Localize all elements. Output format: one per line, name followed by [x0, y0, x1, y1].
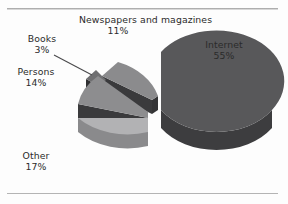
pie-label-newspapers-line1: Newspapers [79, 14, 137, 25]
pie-label-internet-name: Internet [205, 39, 243, 50]
pie-label-internet: Internet 55% [196, 39, 252, 61]
pie-label-newspapers: Newspapers and magazines 11% [79, 14, 157, 36]
pie-label-newspapers-value: 11% [79, 25, 157, 36]
pie-label-persons: Persons 14% [8, 66, 64, 88]
pie-label-other: Other 17% [14, 150, 58, 172]
pie-label-books-name: Books [28, 33, 56, 44]
pie-label-other-name: Other [23, 150, 50, 161]
pie-label-other-value: 17% [14, 161, 58, 172]
pie-label-newspapers-line2: and magazines [140, 14, 212, 25]
pie-label-internet-value: 55% [196, 50, 252, 61]
pie-label-books-value: 3% [18, 44, 66, 55]
pie-label-books: Books 3% [18, 33, 66, 55]
pie-chart-figure: Newspapers and magazines 11% Books 3% Pe… [0, 0, 288, 204]
pie-slice-other [78, 118, 148, 148]
pie-label-persons-value: 14% [8, 77, 64, 88]
pie-label-persons-name: Persons [18, 66, 55, 77]
